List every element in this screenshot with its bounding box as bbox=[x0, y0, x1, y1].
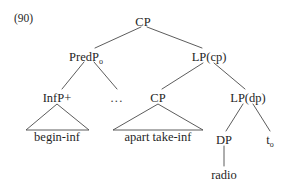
node-infp: InfP+ bbox=[43, 91, 72, 105]
node-lp-dp: LP(dp) bbox=[230, 91, 265, 105]
leaf-apart-take-inf: apart take-inf bbox=[125, 130, 193, 144]
branch-lp-cp-to-lp-dp bbox=[214, 63, 245, 89]
leaf-begin-inf: begin-inf bbox=[34, 130, 81, 144]
branch-root-to-lp-cp bbox=[147, 27, 202, 48]
branch-predp-to-ellipsis bbox=[94, 62, 117, 89]
node-lp-cp: LP(cp) bbox=[192, 50, 227, 64]
node-labels: CP PredPo LP(cp) InfP+ ... CP LP(dp) DP … bbox=[43, 15, 274, 149]
node-predp-text: PredP bbox=[69, 50, 99, 64]
branch-lp-dp-to-dp bbox=[226, 104, 243, 131]
cp-triangle bbox=[113, 104, 203, 130]
example-number: (90) bbox=[14, 12, 33, 25]
syntax-tree-figure: (90) CP PredPo LP(cp) InfP+ ... CP LP(dp… bbox=[0, 0, 286, 187]
leaf-labels: begin-inf apart take-inf radio bbox=[34, 130, 237, 182]
branch-lp-cp-to-cp bbox=[162, 63, 203, 89]
branch-predp-to-infp bbox=[62, 62, 84, 89]
branch-root-to-predp bbox=[95, 27, 141, 48]
triangles bbox=[26, 104, 203, 130]
infp-triangle bbox=[26, 104, 89, 130]
node-cp-embedded: CP bbox=[150, 91, 165, 105]
leaf-radio: radio bbox=[211, 168, 237, 182]
node-ellipsis: ... bbox=[111, 91, 124, 105]
node-predp: PredPo bbox=[69, 50, 103, 66]
node-trace-subscript: o bbox=[270, 140, 274, 149]
node-trace: to bbox=[266, 133, 273, 149]
branch-lp-dp-to-trace bbox=[253, 104, 270, 131]
node-dp: DP bbox=[216, 133, 232, 147]
node-predp-subscript: o bbox=[99, 57, 103, 66]
node-cp-root: CP bbox=[135, 15, 150, 29]
